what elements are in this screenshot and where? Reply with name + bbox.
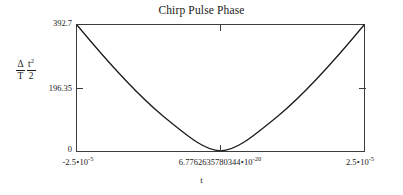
x-tick-right-mantissa: 2.5 (346, 157, 357, 167)
x-tick-left-exponent: -5 (88, 155, 93, 162)
x-tick-center-bottom (220, 145, 221, 152)
x-tick-label-left: -2.5•10-5 (40, 158, 116, 167)
x-tick-label-right: 2.5•10-5 (322, 158, 398, 167)
x-tick-left-mantissa: -2.5 (63, 157, 76, 167)
y-tick-196-right (359, 88, 366, 89)
y-tick-label-392-7: 392.7 (26, 19, 72, 28)
y-axis-label-delta-over-t: Δ T (16, 60, 25, 82)
x-tick-center-exponent: -20 (253, 155, 262, 162)
y-tick-label-0: 0 (56, 145, 72, 154)
y-axis-label-T: T (17, 72, 25, 82)
x-tick-center-top (220, 24, 221, 31)
y-axis-label-t-squared: t2 (27, 60, 35, 70)
y-tick-196 (76, 88, 83, 89)
x-axis-label: t (0, 175, 403, 185)
x-tick-center-mantissa: 6.7762635780344 (179, 157, 241, 167)
x-tick-right-exponent: -5 (369, 155, 374, 162)
y-axis-label-two: 2 (28, 72, 35, 82)
y-axis-label-delta: Δ (16, 60, 24, 70)
y-axis-label-exponent: 2 (31, 57, 34, 64)
chirp-phase-curve (76, 24, 365, 152)
chart-title: Chirp Pulse Phase (0, 4, 403, 16)
x-tick-left-base: 10 (80, 157, 89, 167)
chirp-pulse-phase-figure: Chirp Pulse Phase 392.7 196.35 0 Δ T t2 … (0, 0, 403, 195)
x-tick-right-base: 10 (360, 157, 369, 167)
y-tick-392 (76, 24, 83, 25)
x-tick-center-base: 10 (244, 157, 253, 167)
y-tick-label-196-35: 196.35 (26, 84, 72, 93)
y-axis-label: Δ T t2 2 (16, 60, 36, 82)
x-tick-label-center: 6.7762635780344•10-20 (130, 158, 310, 167)
y-axis-label-tsq-over-two: t2 2 (27, 60, 36, 82)
